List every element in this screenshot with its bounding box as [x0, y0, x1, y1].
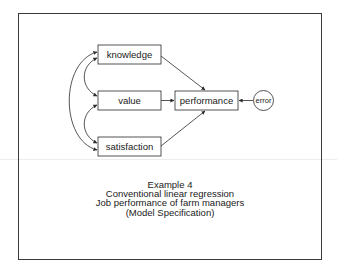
path-diagram: knowledge value satisfaction performance… [0, 0, 337, 276]
covariance-knowledge-satisfaction [69, 52, 97, 150]
covariance-value-satisfaction [84, 105, 97, 143]
node-error: error [254, 91, 274, 111]
path-knowledge-performance [161, 56, 205, 90]
node-knowledge: knowledge [98, 45, 161, 64]
node-error-label: error [256, 96, 272, 105]
node-satisfaction: satisfaction [98, 137, 161, 156]
caption-note: (Model Specification) [18, 208, 322, 217]
node-performance-label: performance [180, 95, 233, 106]
node-knowledge-label: knowledge [107, 49, 152, 60]
covariance-knowledge-value [84, 58, 97, 96]
path-satisfaction-performance [161, 111, 205, 146]
node-performance: performance [175, 91, 238, 110]
figure-caption: Example 4 Conventional linear regression… [18, 180, 322, 217]
node-satisfaction-label: satisfaction [106, 141, 154, 152]
node-value: value [98, 91, 161, 110]
node-value-label: value [118, 95, 141, 106]
